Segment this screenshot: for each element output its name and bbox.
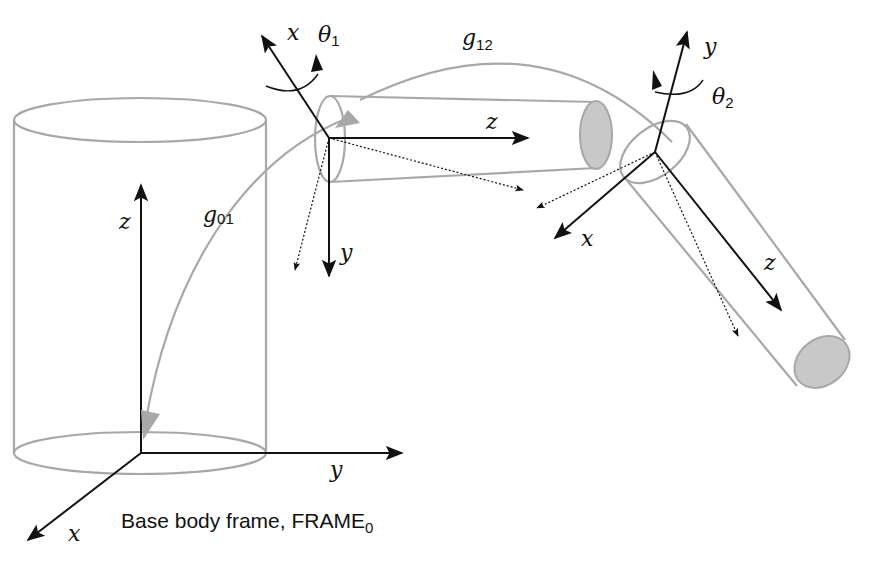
frame1-z-label: z: [485, 109, 498, 134]
frame1-axes: [262, 36, 528, 276]
theta2-rotation-arrow: [655, 80, 703, 94]
kinematic-chain-diagram: z y x g01 g12 x θ1 z y y θ2 x z Base bod…: [0, 0, 873, 566]
theta1-label: θ1: [318, 22, 340, 49]
frame1-y-label: y: [339, 240, 353, 265]
base-frame-axes: [28, 185, 402, 540]
g12-label: g12: [462, 25, 493, 53]
frame2-y-label: y: [703, 34, 717, 59]
frame2-y-axis: [655, 32, 687, 152]
base-x-label: x: [68, 521, 81, 546]
frame1-x-label: x: [287, 20, 300, 45]
link2-cylinder: [609, 108, 860, 398]
g12-arc: [360, 63, 672, 142]
theta2-arrowhead: [652, 70, 662, 90]
theta1-arrowhead: [311, 54, 323, 72]
theta2-label: θ2: [712, 84, 734, 111]
frame1-dotted-y: [295, 138, 329, 270]
base-z-label: z: [118, 209, 131, 234]
diagram-canvas: z y x g01 g12 x θ1 z y y θ2 x z Base bod…: [0, 0, 873, 566]
frame1-dotted-z: [329, 138, 523, 190]
frame2-z-label: z: [763, 250, 776, 275]
frame2-dotted-z: [655, 152, 738, 336]
frame2-z-axis: [655, 152, 781, 310]
base-y-label: y: [329, 457, 343, 482]
g12-arrowhead: [335, 110, 360, 128]
frame2-x-label: x: [581, 226, 594, 251]
base-frame-caption: Base body frame, FRAME0: [121, 509, 373, 536]
frame1-x-axis: [262, 36, 329, 138]
g01-arrowhead: [141, 410, 160, 440]
g01-label: g01: [203, 202, 234, 227]
